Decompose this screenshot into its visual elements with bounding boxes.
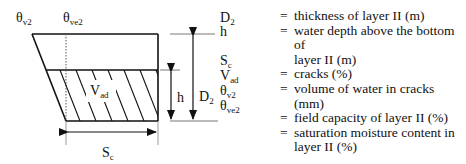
legend-row: =thickness of layer II (m) [280,9,466,24]
symbol-theta-ve2: θve2 [220,99,240,117]
legend-text: layer II (%) [290,140,466,155]
theta-ve2-label: θve2 [63,11,83,29]
theta-v2-label: θv2 [16,11,32,29]
legend-text: volume of water in cracks (mm) [290,82,466,111]
d2-dimension-label: D2 [199,90,214,108]
legend-row: layer II (%) [280,140,466,155]
legend-row: =water depth above the bottom of [280,24,466,53]
legend-text: cracks (%) [290,67,466,82]
legend-text: layer II (m) [290,53,466,68]
legend-text: water depth above the bottom of [290,24,466,53]
vad-region-label: Vad [90,84,109,102]
h-dimension-label: h [177,91,184,105]
legend-text: field capacity of layer II (%) [290,111,466,126]
legend-text: saturation moisture content in [290,126,466,141]
symbol-h: h [220,25,227,39]
legend-row: layer II (m) [280,53,466,68]
legend-definitions: =thickness of layer II (m) =water depth … [280,9,466,155]
legend-row: =cracks (%) [280,67,466,82]
sc-dimension-label: Sc [102,146,114,164]
legend-row: =field capacity of layer II (%) [280,111,466,126]
legend-row: =saturation moisture content in [280,126,466,141]
legend-row: =volume of water in cracks (mm) [280,82,466,111]
legend-text: thickness of layer II (m) [290,9,466,24]
